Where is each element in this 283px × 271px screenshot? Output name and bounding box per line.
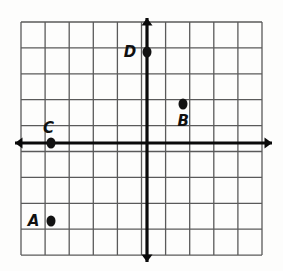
plot-point-a (46, 215, 55, 226)
plot-point-d (143, 47, 152, 58)
point-label-b: B (177, 114, 188, 129)
plot-area: ABCD (0, 0, 283, 271)
x-axis-arrow-left (15, 138, 23, 149)
plot-point-c (46, 138, 55, 149)
y-axis-arrow-down (142, 255, 153, 263)
point-label-c: C (43, 121, 54, 136)
point-label-a: A (28, 213, 40, 228)
plot-point-b (179, 99, 188, 110)
x-axis-arrow-right (265, 138, 273, 149)
coordinate-plane-figure: ABCD (0, 0, 283, 271)
point-label-d: D (124, 45, 136, 60)
